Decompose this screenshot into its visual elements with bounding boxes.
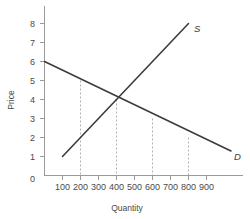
x-tick-label-900: 900 [199, 182, 214, 192]
x-tick-label-700: 700 [163, 182, 178, 192]
y-tick-label-2: 2 [30, 133, 35, 143]
y-tick-label-4: 4 [30, 95, 35, 105]
x-tick-label-200: 200 [73, 182, 88, 192]
x-tick-label-400: 400 [109, 182, 124, 192]
y-tick-label-1: 1 [30, 152, 35, 162]
y-tick-label-8: 8 [30, 19, 35, 29]
chart-canvas: 8 7 6 5 4 3 2 1 0 100 200 300 400 [0, 0, 250, 219]
x-tick-label-500: 500 [127, 182, 142, 192]
supply-curve-label: S [194, 23, 201, 34]
axes-group [45, 6, 244, 176]
x-tick-label-300: 300 [91, 182, 106, 192]
dashed-guides-group [81, 81, 189, 176]
y-tick-label-5: 5 [30, 76, 35, 86]
y-tick-label-7: 7 [30, 38, 35, 48]
demand-curve-label: D [234, 151, 241, 162]
y-axis-title: Price [6, 90, 16, 110]
x-axis-title: Quantity [111, 203, 143, 213]
supply-demand-chart: 8 7 6 5 4 3 2 1 0 100 200 300 400 [0, 0, 250, 219]
y-tick-label-6: 6 [30, 57, 35, 67]
curves-group [45, 24, 232, 157]
x-tick-label-100: 100 [55, 182, 70, 192]
x-axis-tick-labels: 100 200 300 400 500 600 700 800 900 [55, 182, 214, 192]
x-tick-label-800: 800 [181, 182, 196, 192]
x-axis-ticks [63, 176, 207, 181]
y-axis-ticks [40, 24, 45, 157]
y-tick-label-0: 0 [30, 174, 35, 184]
y-axis-tick-labels: 8 7 6 5 4 3 2 1 0 [30, 19, 35, 184]
demand-curve [45, 62, 232, 152]
y-tick-label-3: 3 [30, 114, 35, 124]
x-tick-label-600: 600 [145, 182, 160, 192]
supply-curve [63, 24, 189, 157]
